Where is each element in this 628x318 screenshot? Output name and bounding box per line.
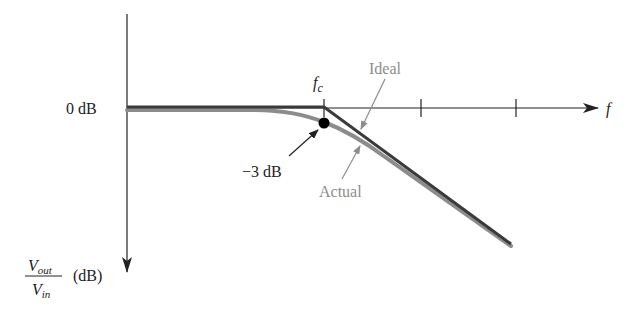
y-label-denominator: Vin [32,281,51,300]
fc-label: fc [313,74,323,95]
y-num-sub: out [38,264,53,276]
actual-curve [127,110,511,246]
y-den-sub: in [42,288,51,300]
minus3db-label: −3 dB [242,163,282,180]
ideal-curve [127,107,511,244]
minus3db-arrow [289,130,318,156]
ideal-arrow [361,79,385,129]
fc-label-sub: c [317,81,323,95]
y-label-numerator: Vout [28,257,53,276]
minus3db-point [319,118,330,129]
ideal-label: Ideal [369,60,402,77]
zero-db-label: 0 dB [66,100,97,117]
bode-plot-diagram: 0 dB −3 dB fc f Ideal Actual Vout Vin (d… [0,0,628,318]
actual-label: Actual [319,183,362,200]
actual-arrow [342,146,360,179]
y-label-unit: (dB) [73,267,102,285]
f-axis-label: f [606,100,613,118]
